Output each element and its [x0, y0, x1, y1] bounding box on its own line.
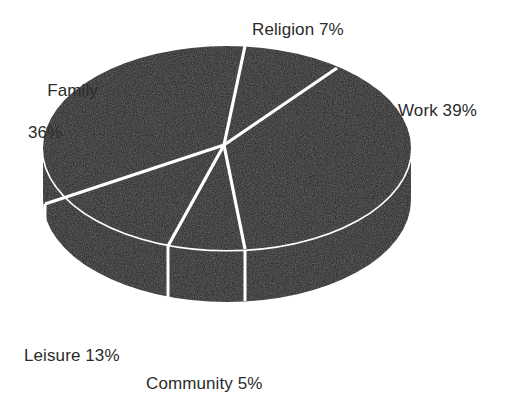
slice-label-leisure: Leisure 13% [24, 345, 120, 366]
pie-top-face [43, 46, 411, 250]
slice-label-religion: Religion 7% [252, 19, 344, 40]
pie-chart: Religion 7% Work 39% Family 36% Leisure … [0, 0, 509, 420]
slice-label-work: Work 39% [398, 100, 477, 121]
slice-label-family-name: Family [47, 81, 98, 100]
slice-label-family: Family 36% [28, 59, 98, 185]
slice-label-family-value: 36% [28, 122, 98, 143]
slice-label-community: Community 5% [146, 373, 262, 394]
